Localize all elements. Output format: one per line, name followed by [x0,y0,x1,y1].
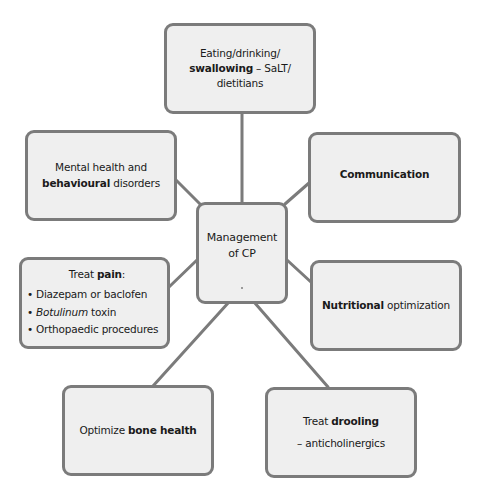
pain-item-diazepam: Diazepam or baclofen [27,287,158,302]
node-swallowing: Eating/drinking/ swallowing – SaLT/ diet… [164,23,316,114]
swallowing-line3: dietitians [217,76,264,91]
drooling-bold: drooling [331,415,379,427]
node-center-management-of-cp: Management of CP [196,202,288,304]
node-pain: Treat pain: Diazepam or baclofen Botulin… [19,257,170,349]
nutrition-rest: optimization [384,299,450,311]
node-drooling: Treat drooling – anticholinergics [265,387,417,478]
node-bone-health: Optimize bone health [62,385,214,476]
swallowing-line2: swallowing – SaLT/ [189,61,291,76]
drooling-line2: – anticholinergics [297,436,385,451]
communication-bold: Communication [340,168,429,180]
swallowing-line2-rest: – SaLT/ [253,62,291,74]
pain-title-end: : [122,268,125,280]
connector-mental-health [176,180,200,204]
mental-health-line2-rest: disorders [110,177,160,189]
nutrition-label: Nutritional optimization [322,298,450,313]
drooling-line1: Treat drooling [303,414,379,429]
mental-health-line2: behavioural disorders [42,176,160,191]
drooling-plain: Treat [303,415,331,427]
communication-label: Communication [340,167,429,182]
connector-pain [169,260,197,287]
nutrition-bold: Nutritional [322,299,384,311]
connector-nutrition [287,260,312,283]
pain-item-botulinum-italic: Botulinum [36,306,88,318]
pain-title: Treat pain: [69,267,125,282]
node-nutrition: Nutritional optimization [310,260,462,351]
bone-plain: Optimize [79,424,128,436]
mental-health-bold: behavioural [42,177,110,189]
swallowing-line1: Eating/drinking/ [200,46,280,61]
node-mental-health: Mental health and behavioural disorders [25,130,177,221]
pain-item-orthopaedic: Orthopaedic procedures [27,322,158,337]
center-line2: of CP [228,246,255,262]
pain-treatment-list: Diazepam or baclofen Botulinum toxin Ort… [27,285,158,339]
mental-health-line1: Mental health and [55,160,147,175]
pain-item-botulinum: Botulinum toxin [27,305,158,320]
pain-title-bold: pain [97,268,122,280]
center-line1: Management [207,230,277,246]
swallowing-bold: swallowing [189,62,253,74]
bone-bold: bone health [128,424,197,436]
center-dot [241,287,243,289]
pain-item-botulinum-rest: toxin [88,306,116,318]
node-communication: Communication [308,132,461,223]
connector-communication [285,183,309,204]
bone-label: Optimize bone health [79,423,196,438]
pain-title-plain: Treat [69,268,97,280]
